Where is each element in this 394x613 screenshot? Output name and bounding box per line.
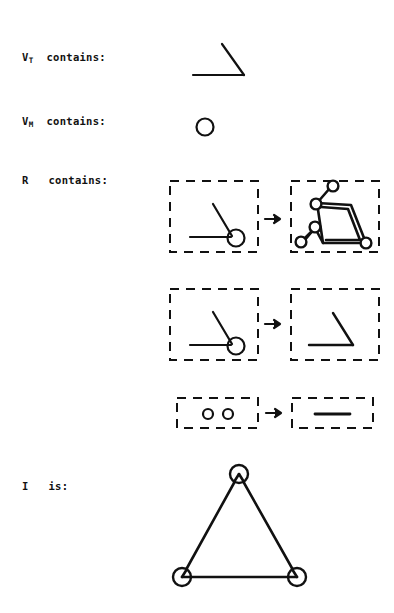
rule-1-lhs-angle-with-node [190, 204, 245, 247]
label-vm-text: contains: [46, 115, 106, 127]
rule-2-lhs-angle-with-node [190, 312, 245, 355]
rule-1-rhs-triangle-with-antennae [303, 188, 366, 243]
axiom-triangle-with-three-nodes [173, 465, 306, 586]
rule-2-lhs-diagonal-segment [213, 312, 232, 344]
vt-diagonal-segment [222, 44, 244, 75]
rule-2-arrow-icon [265, 320, 280, 328]
diagram-graphics [0, 0, 394, 613]
rule-1-rhs-node-mid-left [310, 222, 321, 233]
rule-2-rhs-diagonal-segment [333, 313, 353, 345]
rule-1-rhs-node-top [328, 181, 339, 192]
rule-1-rhs-node-bottom-left [296, 237, 307, 248]
rule-3-arrow-icon [266, 409, 281, 417]
axiom-edge-left [182, 474, 239, 577]
vm-shape-circle-node [197, 119, 214, 136]
rule-1-lhs-diagonal-segment [213, 204, 232, 236]
label-vt-symbol: V [22, 51, 29, 63]
rule-2-rhs-box [291, 289, 379, 360]
rule-2 [170, 289, 379, 360]
label-r-symbol: R [22, 174, 29, 186]
label-vm: VM contains: [22, 116, 106, 129]
rule-2-rhs-open-angle [309, 313, 353, 345]
label-r-text: contains: [49, 174, 109, 186]
rule-1-rhs-node-upper-left [311, 199, 322, 210]
label-vt-subscript: T [29, 56, 34, 65]
vm-node-circle [197, 119, 214, 136]
vt-shape-open-angle [193, 44, 244, 75]
rule-3-lhs-node-left [203, 409, 213, 419]
label-i-text: is: [49, 480, 69, 492]
rule-1-rhs-node-bottom-right [361, 238, 372, 249]
rule-1-arrow-icon [265, 215, 280, 223]
rule-3-lhs-two-nodes [203, 409, 233, 419]
label-i-symbol: I [22, 480, 29, 492]
label-i: I is: [22, 481, 68, 492]
figure-canvas: VT contains: VM contains: R contains: I … [0, 0, 394, 613]
label-vm-symbol: V [22, 115, 29, 127]
label-vm-subscript: M [29, 120, 34, 129]
rule-3 [177, 398, 373, 428]
rule-1 [170, 181, 379, 252]
rule-3-lhs-node-right [223, 409, 233, 419]
axiom-edge-right [239, 474, 297, 577]
rule-3-lhs-box [177, 398, 258, 428]
label-vt-text: contains: [46, 51, 106, 63]
label-r: R contains: [22, 175, 108, 186]
label-vt: VT contains: [22, 52, 106, 65]
